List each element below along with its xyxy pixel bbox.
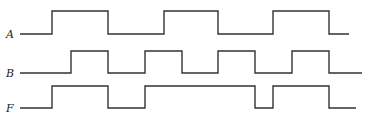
timing-diagram: A B F xyxy=(0,0,368,130)
waveform-b xyxy=(20,51,362,73)
signal-label-b: B xyxy=(6,68,14,79)
waveform-a xyxy=(20,11,349,34)
signal-label-a: A xyxy=(6,29,14,40)
signal-label-f: F xyxy=(6,103,14,114)
waveform-f xyxy=(20,86,356,108)
waveforms xyxy=(0,0,368,130)
